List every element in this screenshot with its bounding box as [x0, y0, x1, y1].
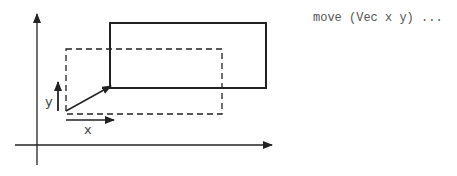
diagram-canvas: y x — [0, 0, 457, 176]
code-text: move (Vec x y) ... — [313, 11, 443, 25]
y-label: y — [45, 94, 53, 109]
x-label: x — [84, 122, 92, 137]
moved-rect — [110, 23, 266, 88]
translation-vector-arrow — [66, 86, 111, 111]
original-rect — [66, 49, 222, 114]
